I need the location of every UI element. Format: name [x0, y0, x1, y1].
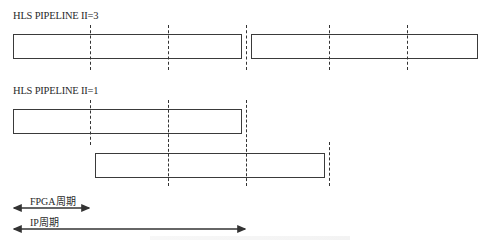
diagram-canvas: HLS PIPELINE II=3 HLS PIPELINE II=1 FPGA…: [0, 0, 488, 243]
ip-cycle-label: IP周期: [30, 214, 59, 229]
faded-caption: [150, 236, 350, 240]
fpga-cycle-label: FPGA周期: [30, 193, 76, 208]
